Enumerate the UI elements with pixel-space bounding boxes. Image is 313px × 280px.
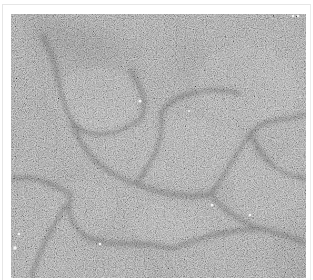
grain-layer-2 bbox=[11, 14, 306, 278]
speck bbox=[188, 110, 190, 112]
speck bbox=[299, 96, 301, 98]
micrograph-canvas bbox=[11, 14, 306, 278]
speck bbox=[297, 15, 299, 17]
speck bbox=[13, 246, 17, 250]
speck bbox=[249, 214, 252, 217]
speck bbox=[211, 204, 214, 207]
speck bbox=[292, 15, 294, 17]
speck bbox=[138, 99, 141, 102]
speck bbox=[18, 233, 20, 235]
micrograph-image bbox=[11, 14, 306, 278]
speck bbox=[99, 243, 102, 246]
